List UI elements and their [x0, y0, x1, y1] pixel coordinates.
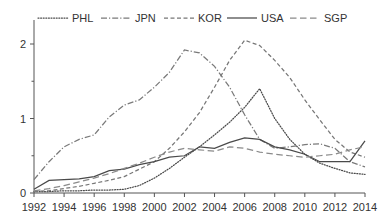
x-tick-label: 2012 — [323, 201, 347, 213]
legend-label-usa: USA — [261, 12, 284, 24]
chart-canvas: PHLJPNKORUSASGP 199219941996199820002002… — [0, 0, 385, 222]
x-tick-label: 1992 — [22, 201, 46, 213]
x-axis-tick-labels: 1992199419961998200020022004200620082010… — [22, 201, 377, 213]
x-tick-label: 2014 — [353, 201, 377, 213]
y-tick-label: 1 — [20, 113, 26, 125]
series-line-phl — [34, 89, 365, 192]
y-tick-label: 2 — [20, 38, 26, 50]
y-axis-tick-labels: 012 — [20, 38, 26, 199]
line-chart: PHLJPNKORUSASGP 199219941996199820002002… — [0, 0, 385, 222]
x-tick-label: 2006 — [232, 201, 256, 213]
x-tick-label: 2004 — [202, 201, 226, 213]
legend-label-jpn: JPN — [135, 12, 156, 24]
x-tick-label: 1994 — [52, 201, 76, 213]
x-tick-label: 2000 — [142, 201, 166, 213]
x-tick-label: 2008 — [262, 201, 286, 213]
y-tick-label: 0 — [20, 187, 26, 199]
legend-label-phl: PHL — [72, 12, 93, 24]
x-tick-label: 1998 — [112, 201, 136, 213]
chart-legend: PHLJPNKORUSASGP — [38, 12, 347, 24]
legend-label-sgp: SGP — [324, 12, 347, 24]
x-tick-label: 1996 — [82, 201, 106, 213]
x-tick-label: 2002 — [172, 201, 196, 213]
chart-axes — [30, 20, 365, 197]
x-tick-label: 2010 — [293, 201, 317, 213]
series-line-sgp — [34, 147, 365, 191]
series-line-usa — [34, 138, 365, 189]
legend-label-kor: KOR — [198, 12, 222, 24]
series-line-kor — [34, 40, 365, 191]
chart-series — [34, 40, 365, 191]
